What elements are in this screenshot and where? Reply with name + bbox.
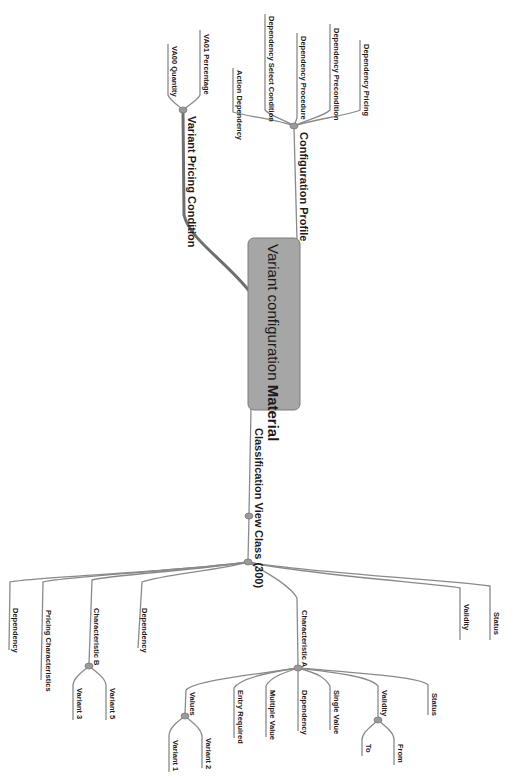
node-action-dependency[interactable]: Action Dependency	[235, 70, 244, 141]
node-dot-class	[244, 559, 252, 565]
node-dependency-procedure[interactable]: Dependency Procedure	[299, 36, 308, 120]
edge-class-dependency-1	[138, 562, 248, 648]
edge-class-characteristic-b	[89, 562, 248, 664]
node-variant-pricing-condition[interactable]: Variant Pricing Condition	[186, 116, 198, 248]
edge-dependency-procedure	[294, 33, 297, 126]
node-dependency-precondition[interactable]: Dependency Precondition	[332, 28, 341, 121]
node-values-variant-1[interactable]: Variant 1	[171, 740, 180, 771]
node-configuration-profile[interactable]: Configuration Profile	[298, 132, 310, 241]
node-dot-values	[181, 713, 189, 719]
node-dot-classification-view	[245, 513, 253, 519]
node-charb-variant-5[interactable]: Variant 5	[108, 688, 117, 719]
node-validity-to[interactable]: To	[364, 744, 373, 753]
node-dot-configuration-profile	[290, 123, 298, 129]
node-chara-validity[interactable]: Validity	[380, 690, 389, 717]
node-chara-multiple-value[interactable]: Multiple Value	[268, 690, 277, 740]
node-dot-characteristic-b	[85, 663, 93, 669]
node-characteristic-b[interactable]: Characteristic B	[92, 608, 101, 666]
node-class-dependency-2[interactable]: Dependency	[11, 608, 20, 653]
node-characteristic-a[interactable]: Characteristic A	[300, 610, 309, 668]
root-label-part1: Variant configuration	[265, 244, 282, 385]
node-classification-view[interactable]: Classification View	[253, 428, 265, 528]
edge-classification-class	[248, 518, 249, 560]
node-chara-entry-required[interactable]: Entry Required	[236, 690, 245, 744]
node-va00-quantity[interactable]: VA00 Quantity	[170, 46, 179, 98]
node-dots	[85, 107, 382, 723]
node-chara-dependency[interactable]: Dependency	[300, 690, 309, 735]
edge-class-status	[248, 562, 490, 640]
edge-charb-variant-5	[89, 666, 106, 720]
node-pricing-characteristics[interactable]: Pricing Characteristics	[44, 610, 53, 692]
node-chara-values[interactable]: Values	[188, 692, 197, 716]
node-dot-variant-pricing-condition	[179, 107, 187, 113]
node-dependency-select-condition[interactable]: Dependency Select Condition	[267, 16, 276, 122]
root-node[interactable]: Variant configuration Material	[248, 238, 300, 441]
node-class-validity[interactable]: Validity	[462, 604, 471, 631]
node-values-variant-2[interactable]: Variant 2	[204, 738, 213, 769]
node-class-300[interactable]: Class (300)	[253, 530, 265, 588]
root-node-label: Variant configuration Material	[265, 244, 282, 441]
node-charb-variant-3[interactable]: Variant 3	[75, 688, 84, 719]
node-validity-from[interactable]: From	[396, 744, 405, 763]
node-chara-status[interactable]: Status	[430, 693, 439, 716]
node-dot-validity-a	[374, 717, 382, 723]
node-class-dependency-1[interactable]: Dependency	[140, 608, 149, 653]
edge-validity-from	[378, 720, 394, 765]
edge-va01-percentage	[183, 30, 200, 110]
node-class-status[interactable]: Status	[492, 612, 501, 635]
node-chara-single-value[interactable]: Single Value	[332, 690, 341, 734]
root-label-part2: Material	[265, 385, 282, 442]
edge-values-variant-2	[185, 716, 202, 768]
mind-map-canvas: Variant configuration Material Configura…	[0, 0, 515, 783]
node-dependency-pricing[interactable]: Dependency Pricing	[362, 44, 371, 117]
edge-root-configuration-profile	[294, 128, 297, 240]
node-va01-percentage[interactable]: VA01 Percentage	[202, 34, 211, 95]
edge-root-classification-view	[249, 408, 251, 514]
